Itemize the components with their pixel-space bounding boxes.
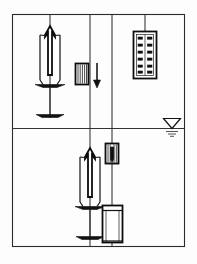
double-valve-bailer-lower: [75, 148, 105, 240]
open-sample-container: [103, 206, 123, 243]
diagram-border: [13, 15, 185, 247]
bailer-upper-right-taper: [57, 80, 60, 85]
water-table-symbol: [164, 119, 181, 137]
screen-slot-r6: [148, 71, 153, 73]
bailer-upper-left-taper: [40, 80, 43, 85]
screen-slot-l6: [138, 71, 143, 73]
cage-ball-valve: [111, 147, 114, 163]
bailer-lower-right-shoulder: [96, 157, 101, 158]
slotted-screen-sampler: [134, 32, 157, 79]
bailer-upper-top-cone: [45, 26, 55, 75]
figure-container: Borehole wireline sampling and logging t…: [0, 0, 197, 264]
borehole-tools-diagram: [0, 0, 197, 264]
double-valve-bailer-upper: [35, 26, 65, 118]
striped-packer-element: [76, 64, 89, 85]
screen-slot-l1: [138, 37, 143, 39]
bailer-upper-left-shoulder: [40, 35, 45, 36]
caged-point-sampler: [106, 144, 119, 164]
screen-slot-r2: [148, 44, 153, 46]
bailer-lower-top-cone: [85, 148, 95, 197]
water-table-triangle-icon: [164, 119, 181, 129]
bailer-lower-right-taper: [97, 202, 100, 207]
bailer-upper-right-shoulder: [56, 35, 61, 36]
bailer-upper-base-plate: [36, 115, 64, 118]
downward-motion-arrow: [94, 63, 101, 88]
screen-slot-l5: [138, 65, 143, 67]
arrow-head-down-icon: [94, 80, 101, 88]
bailer-lower-base-plate: [76, 237, 104, 240]
screen-slot-l3: [138, 51, 143, 53]
screen-slot-r1: [148, 37, 153, 39]
screen-slot-r5: [148, 65, 153, 67]
wireline-group: [50, 14, 145, 246]
screen-slot-r3: [148, 51, 153, 53]
screen-slot-l2: [138, 44, 143, 46]
screen-slot-r4: [148, 58, 153, 60]
bailer-lower-left-taper: [80, 202, 83, 207]
screen-slot-l4: [138, 58, 143, 60]
bailer-lower-left-shoulder: [80, 157, 85, 158]
